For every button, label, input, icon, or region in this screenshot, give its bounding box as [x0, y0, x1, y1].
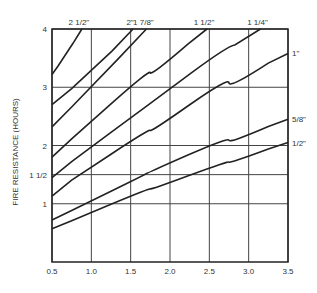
x-tick-label: 3.0	[243, 267, 255, 276]
fire-resistance-chart: 0.51.01.52.02.53.03.5 11 1/2234 2 1/2"2"…	[0, 0, 317, 293]
x-tick-label: 1.5	[125, 267, 137, 276]
series-label: 1 1/4"	[247, 18, 268, 27]
y-tick-label: 1	[43, 200, 48, 209]
x-tick-label: 2.0	[164, 267, 176, 276]
series-label: 2 1/2"	[69, 18, 90, 27]
curve-1-1-4-	[52, 29, 260, 178]
curve-2-	[52, 29, 133, 105]
curve-1-7-8-	[52, 29, 146, 127]
series-label: 1 7/8"	[133, 18, 154, 27]
y-tick-label: 4	[43, 25, 48, 34]
y-tick-label: 2	[43, 142, 48, 151]
curve-1-1-2-	[52, 29, 207, 157]
grid	[52, 29, 288, 262]
y-axis-ticks: 11 1/2234	[29, 25, 47, 209]
series-label: 1"	[292, 49, 299, 58]
x-axis-ticks: 0.51.01.52.02.53.03.5	[46, 267, 294, 276]
y-tick-label: 1 1/2	[29, 171, 47, 180]
curve-2-1-2-	[52, 29, 82, 74]
x-tick-label: 3.5	[282, 267, 294, 276]
y-tick-label: 3	[43, 83, 48, 92]
series-label: 1 1/2"	[194, 18, 215, 27]
series-label: 1/2"	[292, 139, 306, 148]
x-tick-label: 2.5	[204, 267, 216, 276]
series-labels: 2 1/2"2"1 7/8"1 1/2"1 1/4"1"5/8"1/2"	[69, 18, 307, 148]
y-axis-label: FIRE RESISTANCE (HOURS)	[11, 98, 20, 206]
x-tick-label: 1.0	[86, 267, 98, 276]
series-label: 5/8"	[292, 115, 306, 124]
x-tick-label: 0.5	[46, 267, 58, 276]
